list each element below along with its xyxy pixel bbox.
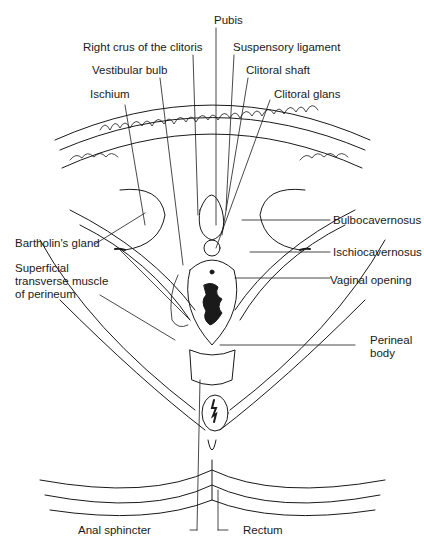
anatomy-diagram: Pubis Right crus of the clitoris Suspens… — [0, 0, 424, 540]
vulva-structures — [171, 195, 237, 500]
label-vaginal-opening: Vaginal opening — [330, 274, 412, 287]
label-vestibular-bulb: Vestibular bulb — [92, 64, 167, 77]
label-pubis: Pubis — [214, 14, 243, 27]
label-clitoral-glans: Clitoral glans — [274, 88, 340, 101]
label-bartholins-gland: Bartholin's gland — [15, 237, 100, 250]
label-anal-sphincter: Anal sphincter — [78, 524, 151, 537]
leader-lines — [95, 28, 355, 530]
label-right-crus: Right crus of the clitoris — [83, 41, 203, 54]
label-ischium: Ischium — [90, 88, 130, 101]
label-suspensory-ligament: Suspensory ligament — [233, 41, 340, 54]
label-perineal-body: Perineal body — [370, 334, 412, 360]
label-ischiocavernosus: Ischiocavernosus — [333, 246, 422, 259]
label-clitoral-shaft: Clitoral shaft — [246, 64, 310, 77]
label-superficial-transverse-muscle: Superficial transverse muscle of perineu… — [15, 262, 108, 301]
label-bulbocavernosus: Bulbocavernosus — [333, 214, 421, 227]
label-rectum: Rectum — [243, 524, 283, 537]
pubic-arc — [55, 105, 370, 168]
